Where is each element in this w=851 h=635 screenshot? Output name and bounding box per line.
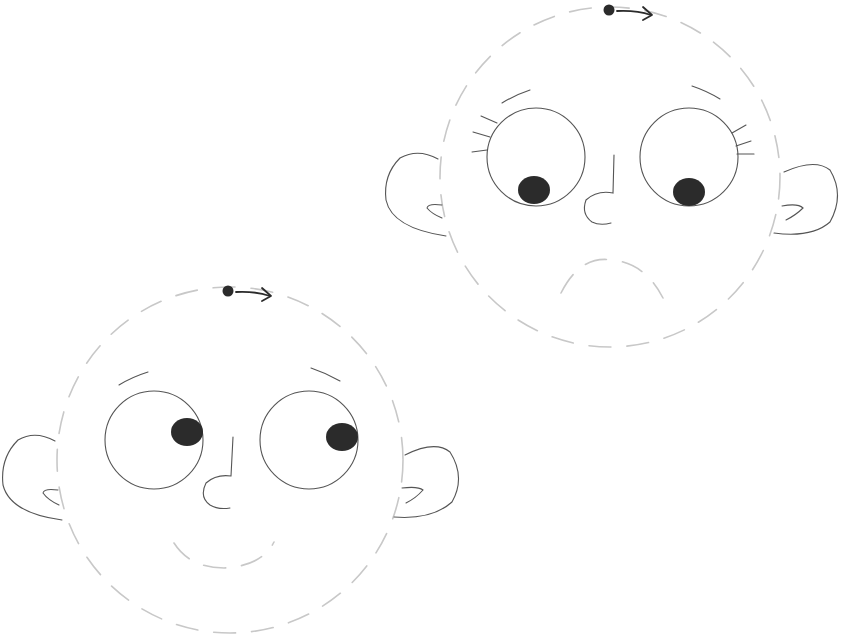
right-pupil: [673, 178, 705, 206]
left-eyebrow: [119, 372, 148, 385]
right-eyebrow: [692, 86, 720, 99]
eyelash: [736, 141, 751, 146]
ear-inner: [402, 487, 423, 503]
mouth-frown: [561, 259, 663, 298]
left-eye: [472, 108, 585, 206]
left-ear: [3, 435, 62, 520]
nose: [203, 437, 233, 509]
left-eye: [105, 391, 203, 489]
rotate-handle[interactable]: [223, 286, 272, 302]
eyelash: [472, 150, 487, 152]
eyelash: [732, 125, 746, 133]
right-eye: [640, 108, 754, 206]
left-eyebrow: [502, 90, 530, 103]
eyelash: [473, 132, 490, 137]
eyelash: [481, 116, 497, 123]
left-pupil: [171, 418, 203, 446]
face-sad[interactable]: [386, 5, 838, 348]
face-happy[interactable]: [3, 286, 459, 634]
right-eyebrow: [311, 368, 340, 381]
illustration-canvas: Two cartoon faces with dashed head outli…: [0, 0, 851, 635]
right-pupil: [326, 423, 358, 451]
rotate-handle[interactable]: [604, 5, 653, 21]
ear-inner: [43, 489, 59, 505]
mouth-smile: [174, 542, 274, 568]
rotate-dot-icon[interactable]: [604, 5, 615, 16]
rotate-dot-icon[interactable]: [223, 286, 234, 297]
right-eye: [260, 391, 358, 489]
right-ear: [774, 164, 838, 234]
left-pupil: [518, 176, 550, 204]
nose: [584, 155, 614, 224]
rotate-arrow-icon: [236, 292, 270, 296]
left-ear: [386, 153, 446, 236]
